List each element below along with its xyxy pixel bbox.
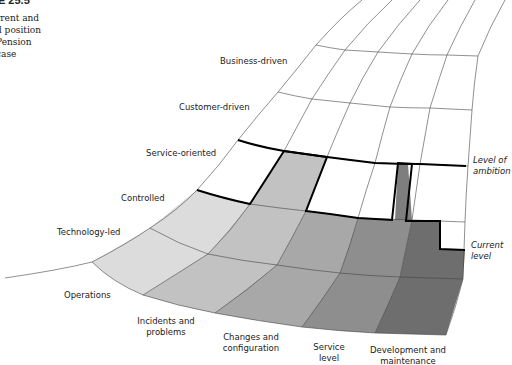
ambition-outline <box>238 140 466 166</box>
row-label-customer-driven: Customer-driven <box>179 102 250 112</box>
current-level-label: Current level <box>471 240 503 262</box>
current-level-fills <box>92 151 465 335</box>
col-label-service-level: Service level <box>309 342 349 364</box>
col-label-changes: Changes and configuration <box>220 332 282 354</box>
row-label-controlled: Controlled <box>121 193 165 203</box>
row-label-service-oriented: Service-oriented <box>146 148 216 158</box>
col-label-development: Development and maintenance <box>368 345 448 365</box>
row-label-technology-led: Technology-led <box>57 227 121 237</box>
row-label-business-driven: Business-driven <box>220 56 287 66</box>
col-label-operations: Operations <box>64 290 110 301</box>
maturity-grid <box>0 0 512 365</box>
level-of-ambition-label: Level of ambition <box>473 155 511 177</box>
col-label-incidents: Incidents and problems <box>136 316 196 338</box>
